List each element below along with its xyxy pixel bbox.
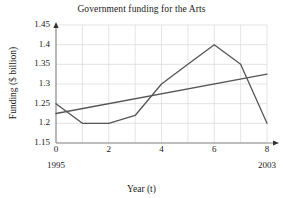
chart-container: Government funding for the Arts Funding … — [0, 0, 283, 198]
plot-area — [0, 0, 283, 198]
